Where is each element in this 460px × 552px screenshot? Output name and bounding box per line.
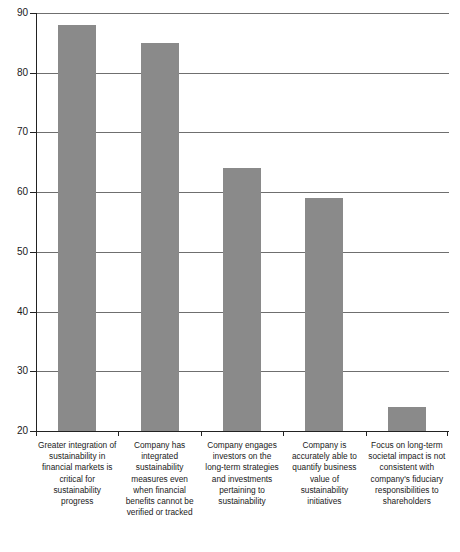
x-axis-tick-mark (36, 431, 37, 436)
x-axis-category-label: Greater integration of sustainability in… (36, 440, 118, 552)
x-axis-tick-mark (283, 431, 284, 436)
bar-chart: 90 80 70 60 50 40 30 20 (0, 0, 460, 552)
x-axis-category-label: Company engages investors on the long-te… (201, 440, 283, 552)
bar[interactable] (223, 168, 261, 431)
y-axis-tick-label: 80 (2, 68, 28, 78)
bar[interactable] (388, 407, 426, 431)
bar[interactable] (305, 198, 343, 431)
bar[interactable] (141, 43, 179, 431)
x-axis-tick-mark (447, 431, 448, 436)
y-axis-tick-label: 50 (2, 247, 28, 257)
x-axis-tick-mark (118, 431, 119, 436)
y-axis-tick-label: 20 (2, 426, 28, 436)
x-axis-tick-mark (201, 431, 202, 436)
y-axis-tick-label: 30 (2, 366, 28, 376)
x-axis-category-label: Focus on long-term societal impact is no… (366, 440, 448, 552)
x-axis-tick-mark (366, 431, 367, 436)
y-axis-tick-label: 40 (2, 307, 28, 317)
x-axis-category-label: Company is accurately able to quantify b… (283, 440, 365, 552)
bars-layer (36, 13, 448, 431)
y-axis-tick-label: 90 (2, 8, 28, 18)
x-axis-ticks (36, 431, 448, 437)
bar[interactable] (58, 25, 96, 431)
y-axis-labels: 90 80 70 60 50 40 30 20 (0, 13, 28, 431)
y-axis-tick-label: 70 (2, 127, 28, 137)
x-axis-labels: Greater integration of sustainability in… (36, 440, 448, 552)
x-axis-category-label: Company has integrated sustainability me… (118, 440, 200, 552)
y-axis-tick-label: 60 (2, 187, 28, 197)
